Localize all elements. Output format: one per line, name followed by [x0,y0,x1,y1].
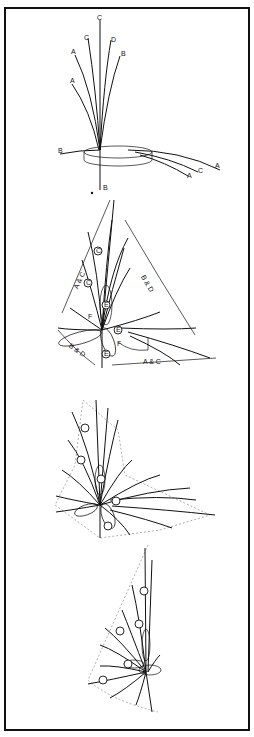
marker-label: F [117,340,121,347]
diagram-canvas: C C D A B A B A C A B [0,0,254,737]
stem-label: C [97,14,102,21]
dimension-label: A & C [143,358,161,365]
stem-label: B [103,184,108,191]
circle-label: E [104,301,109,308]
marker-label: F [88,313,92,320]
stem-label: B [121,50,126,57]
stem-label: A [70,77,75,84]
circle-label: C [86,279,91,286]
dimension-label: B & D [68,342,87,358]
circle-label: E [116,326,121,333]
stem-label: A [187,172,192,179]
stem-label: A [71,48,76,55]
dimension-label: A & C [72,271,86,290]
circle-label: E [104,350,109,357]
stem-label: C [198,167,203,174]
dimension-label: B & D [140,274,155,293]
panel-fan-elevation: C C D A B A B A C A B [58,14,220,194]
panel-placement-plan: C C E E E F F A & C B & D B & D A & C [57,200,216,368]
stem-label: B [58,147,63,154]
circle-label: C [96,247,101,254]
stem-label: A [215,162,220,169]
stem-label: C [84,34,89,41]
panel-side-profile [88,545,161,712]
panel-filled-plan [55,400,215,538]
stem-label: D [111,36,116,43]
